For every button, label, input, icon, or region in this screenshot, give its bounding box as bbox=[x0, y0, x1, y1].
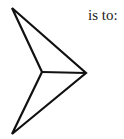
arrowhead-center-line bbox=[42, 72, 86, 73]
arrowhead-outline bbox=[12, 8, 86, 134]
caption-text: is to: bbox=[88, 8, 118, 23]
